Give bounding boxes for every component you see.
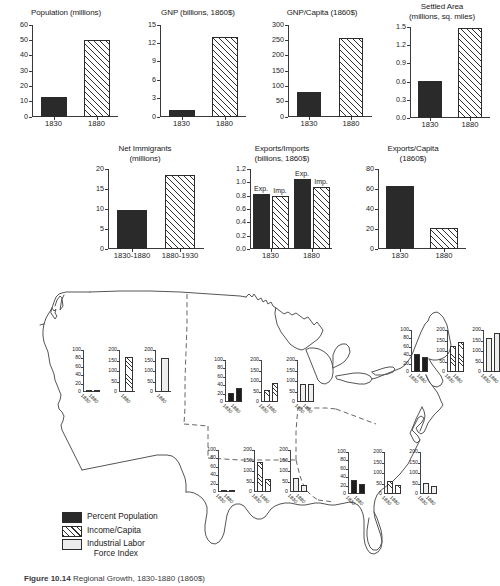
y-axis — [32, 25, 33, 117]
legend-label: Income/Capita — [87, 526, 141, 536]
mini-y-tick-label: 100 — [214, 357, 223, 362]
y-tick-label: 200 — [272, 52, 284, 59]
y-tick-label: 0.3 — [396, 96, 406, 103]
mini-y-tick-label: 150 — [373, 460, 382, 465]
x-tick-label: 1830 — [422, 121, 439, 129]
y-tick — [105, 169, 108, 170]
chart-title: GNP/Capita (1860$) — [262, 8, 382, 18]
mini-y-tick-label: 40 — [75, 373, 81, 378]
chart-panel-exports-per-capita: Exports/Capita (1860$) 020406080 1830188… — [352, 144, 474, 249]
mini-y-tick-label: 60 — [210, 464, 216, 469]
mini-y-tick-label: 0 — [478, 369, 481, 374]
mini-bar-south-central-1830 — [257, 462, 263, 492]
legend-item-income-per-capita: Income/Capita — [62, 526, 158, 537]
mini-bar-northeast-1830 — [414, 354, 420, 372]
mini-y-axis — [420, 452, 421, 494]
x-tick-label: 1880 — [88, 120, 105, 128]
y-tick-label: 20 — [20, 82, 28, 89]
y-tick-label: 80 — [366, 165, 374, 172]
y-tick — [407, 63, 410, 64]
mini-y-tick-label: 20 — [75, 381, 81, 386]
mini-chart-southeast-industrial-labor-force-index: 50100150200018301880 — [407, 452, 436, 494]
mini-y-tick — [223, 377, 225, 378]
mini-y-tick-label: 40 — [217, 383, 223, 388]
mini-y-tick-label: 50 — [289, 389, 295, 394]
bar-exports-imports-Imp-1830 — [272, 196, 289, 249]
y-tick-label: 0 — [370, 245, 374, 252]
bar-settled-area-1880 — [458, 28, 482, 118]
y-axis — [288, 25, 289, 117]
y-tick-label: 0.8 — [236, 192, 246, 199]
mini-y-tick-label: 100 — [207, 447, 216, 452]
bar-gnp-per-capita-1880 — [339, 38, 363, 117]
bar-series-label: Imp. — [314, 178, 328, 185]
y-tick — [29, 25, 32, 26]
mini-y-tick-label: 100 — [286, 378, 295, 383]
mini-bar-southeast-1880 — [431, 486, 437, 494]
y-tick-label: 20 — [366, 225, 374, 232]
y-tick — [29, 55, 32, 56]
mini-bar-south-central-1880 — [301, 485, 307, 492]
bar-exports-imports-Exp-1830 — [253, 194, 270, 249]
y-tick-label: 40 — [366, 205, 374, 212]
mini-y-tick — [346, 469, 348, 470]
mini-y-tick-label: 100 — [373, 470, 382, 475]
mini-y-tick-label: 100 — [436, 348, 445, 353]
mini-y-tick — [288, 482, 290, 483]
y-tick — [375, 169, 378, 170]
y-tick — [285, 101, 288, 102]
mini-y-tick — [346, 486, 348, 487]
y-tick-label: 20 — [96, 165, 104, 172]
x-tick-label: 1880-1930 — [162, 252, 198, 260]
mini-plot-area: 50100150200018301880 — [384, 452, 400, 494]
y-axis — [410, 27, 411, 118]
mini-y-tick-label: 100 — [144, 368, 153, 373]
y-tick — [247, 236, 250, 237]
y-tick-label: 0 — [24, 113, 28, 120]
y-tick — [29, 86, 32, 87]
mini-y-axis — [218, 450, 219, 492]
bar-settled-area-1830 — [418, 81, 442, 118]
mini-y-tick-label: 150 — [436, 338, 445, 343]
mini-y-tick-label: 0 — [249, 489, 252, 494]
y-tick-label: 40 — [20, 52, 28, 59]
mini-bar-midwest-1880 — [272, 383, 278, 402]
mini-y-tick-label: 200 — [279, 447, 288, 452]
mini-y-tick-label: 20 — [217, 391, 223, 396]
y-axis — [160, 25, 161, 117]
mini-plot-area: 20406080100018301880 — [411, 330, 427, 372]
bar-series-label: Exp. — [254, 185, 268, 192]
mini-chart-west-percent-population: 20406080100018301880 — [70, 350, 99, 392]
mini-y-tick-label: 200 — [373, 449, 382, 454]
bar-series-label: Imp. — [273, 187, 287, 194]
x-tick-label: 1830 — [301, 120, 318, 128]
mini-plot-area: 50100150200018301880 — [254, 450, 270, 492]
mini-plot-area: 50100150200018301880 — [420, 452, 436, 494]
mini-bar-southeast-1830 — [423, 483, 429, 494]
y-tick-label: 15 — [148, 21, 156, 28]
y-tick-label: 150 — [272, 67, 284, 74]
mini-plot-area: 20406080100018301880 — [348, 452, 364, 494]
legend-swatch-solid — [62, 512, 82, 523]
mini-y-tick-label: 0 — [442, 369, 445, 374]
mini-plot-area: 50100150200018301880 — [483, 330, 499, 372]
caption-label: Figure 10.14 — [24, 574, 71, 583]
y-axis — [250, 169, 251, 249]
y-tick — [407, 100, 410, 101]
y-tick — [285, 25, 288, 26]
mini-chart-west-income-per-capita: 5010015020001880 — [106, 350, 135, 392]
figure-caption: Figure 10.14 Regional Growth, 1830-1880 … — [24, 574, 444, 586]
chart-title: Population (millions) — [6, 8, 126, 18]
y-tick — [407, 27, 410, 28]
y-tick — [285, 71, 288, 72]
mini-y-tick-label: 0 — [220, 399, 223, 404]
mini-chart-midwest-income-per-capita: 50100150200018301880 — [248, 360, 277, 402]
plot-area-exports-per-capita: 020406080 18301880 — [378, 169, 466, 249]
y-tick-label: 10 — [96, 205, 104, 212]
chart-title: Exports/Imports (billions, 1860$) — [222, 144, 342, 163]
mini-bar-northeast-1880 — [422, 357, 428, 372]
mini-y-axis — [119, 350, 120, 392]
y-tick — [247, 249, 250, 250]
mini-bar-northeast-1880 — [494, 333, 500, 372]
